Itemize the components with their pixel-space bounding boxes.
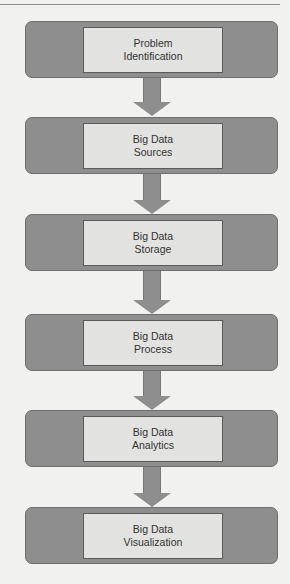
step-label-line2: Process: [134, 343, 172, 356]
step-label-line2: Storage: [135, 243, 172, 256]
step-label-box: Big Data Visualization: [83, 513, 223, 559]
step-problem-identification: Problem Identification: [25, 21, 278, 78]
step-big-data-visualization: Big Data Visualization: [25, 507, 278, 564]
step-label-line1: Big Data: [133, 523, 173, 536]
step-label-line1: Big Data: [133, 330, 173, 343]
top-divider: [0, 4, 280, 5]
step-label-line1: Big Data: [133, 426, 173, 439]
step-big-data-process: Big Data Process: [25, 314, 278, 371]
step-label-line2: Identification: [124, 50, 183, 63]
step-label-line2: Sources: [134, 146, 173, 159]
step-big-data-storage: Big Data Storage: [25, 214, 278, 271]
step-label-line1: Big Data: [133, 230, 173, 243]
step-label-box: Big Data Sources: [83, 123, 223, 169]
step-big-data-sources: Big Data Sources: [25, 117, 278, 174]
step-big-data-analytics: Big Data Analytics: [25, 410, 278, 467]
step-label-line2: Visualization: [124, 536, 183, 549]
step-label-line1: Big Data: [133, 133, 173, 146]
step-label-box: Big Data Storage: [83, 220, 223, 266]
step-label-box: Big Data Analytics: [83, 416, 223, 462]
step-label-box: Problem Identification: [83, 27, 223, 73]
step-label-box: Big Data Process: [83, 320, 223, 366]
step-label-line2: Analytics: [132, 439, 174, 452]
step-label-line1: Problem: [133, 37, 172, 50]
